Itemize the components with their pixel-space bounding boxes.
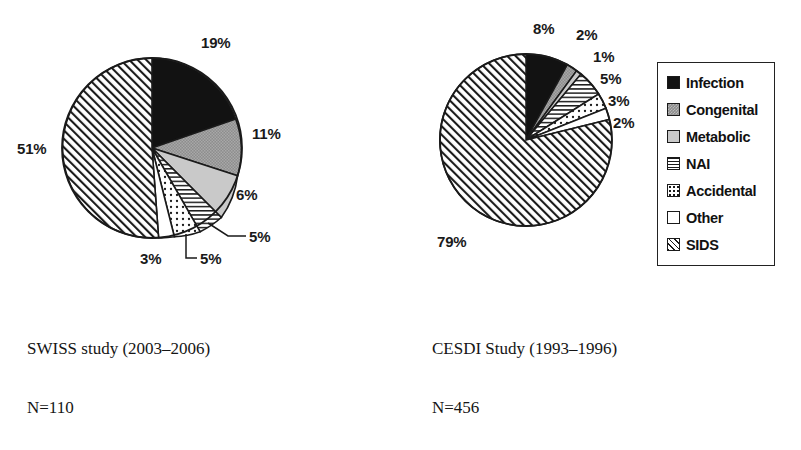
pct-label-right-accidental: 3% (608, 92, 629, 109)
legend-label-accidental: Accidental (686, 183, 756, 199)
pct-label-right-infection: 8% (533, 20, 554, 37)
pct-label-right-other: 2% (613, 114, 634, 131)
legend-label-metabolic: Metabolic (686, 129, 750, 145)
legend-label-infection: Infection (686, 75, 744, 91)
legend-item-accidental[interactable]: Accidental (667, 177, 774, 204)
pct-label-left-metabolic: 6% (236, 186, 257, 203)
legend-item-infection[interactable]: Infection (667, 69, 774, 96)
caption-right-n: N=456 (432, 398, 479, 418)
leader-left-accidental (186, 234, 197, 258)
pct-label-left-nai: 5% (249, 228, 270, 245)
caption-left-n: N=110 (27, 398, 74, 418)
legend-swatch-infection-icon (667, 76, 680, 89)
legend-label-other: Other (686, 210, 723, 226)
legend-swatch-metabolic-icon (667, 130, 680, 143)
legend-item-other[interactable]: Other (667, 204, 774, 231)
pct-label-left-other: 3% (140, 250, 161, 267)
legend-item-metabolic[interactable]: Metabolic (667, 123, 774, 150)
legend-item-sids[interactable]: SIDS (667, 231, 774, 258)
pct-label-left-congenital: 11% (252, 125, 281, 142)
caption-right-title: CESDI Study (1993–1996) (432, 339, 617, 359)
legend-item-congenital[interactable]: Congenital (667, 96, 774, 123)
pie-chart-right (440, 54, 612, 226)
pct-label-left-accidental: 5% (200, 250, 221, 267)
legend-swatch-accidental-icon (667, 184, 680, 197)
legend-swatch-sids-icon (667, 238, 680, 251)
pct-label-left-sids: 51% (17, 140, 46, 157)
pct-label-right-sids: 79% (437, 233, 466, 250)
figure-two-pie-charts: 19% 11% 6% 5% 5% 3% 51% 8% 2% 1% 5% 3% 2… (0, 0, 801, 450)
legend-item-nai[interactable]: NAI (667, 150, 774, 177)
pie-chart-left (62, 58, 246, 258)
caption-left-title: SWISS study (2003–2006) (27, 339, 210, 359)
legend-label-congenital: Congenital (686, 102, 758, 118)
legend-swatch-other-icon (667, 211, 680, 224)
legend-swatch-congenital-icon (667, 103, 680, 116)
pct-label-left-infection: 19% (201, 34, 230, 51)
pct-label-right-metabolic: 1% (593, 48, 614, 65)
legend-swatch-nai-icon (667, 157, 680, 170)
legend-label-nai: NAI (686, 156, 710, 172)
pct-label-right-nai: 5% (600, 70, 621, 87)
legend: Infection Congenital Metabolic NAI Accid… (657, 62, 775, 266)
pct-label-right-congenital: 2% (576, 26, 597, 43)
leader-left-nai (208, 223, 246, 236)
legend-label-sids: SIDS (686, 237, 719, 253)
slice-left-sids[interactable] (63, 58, 159, 238)
